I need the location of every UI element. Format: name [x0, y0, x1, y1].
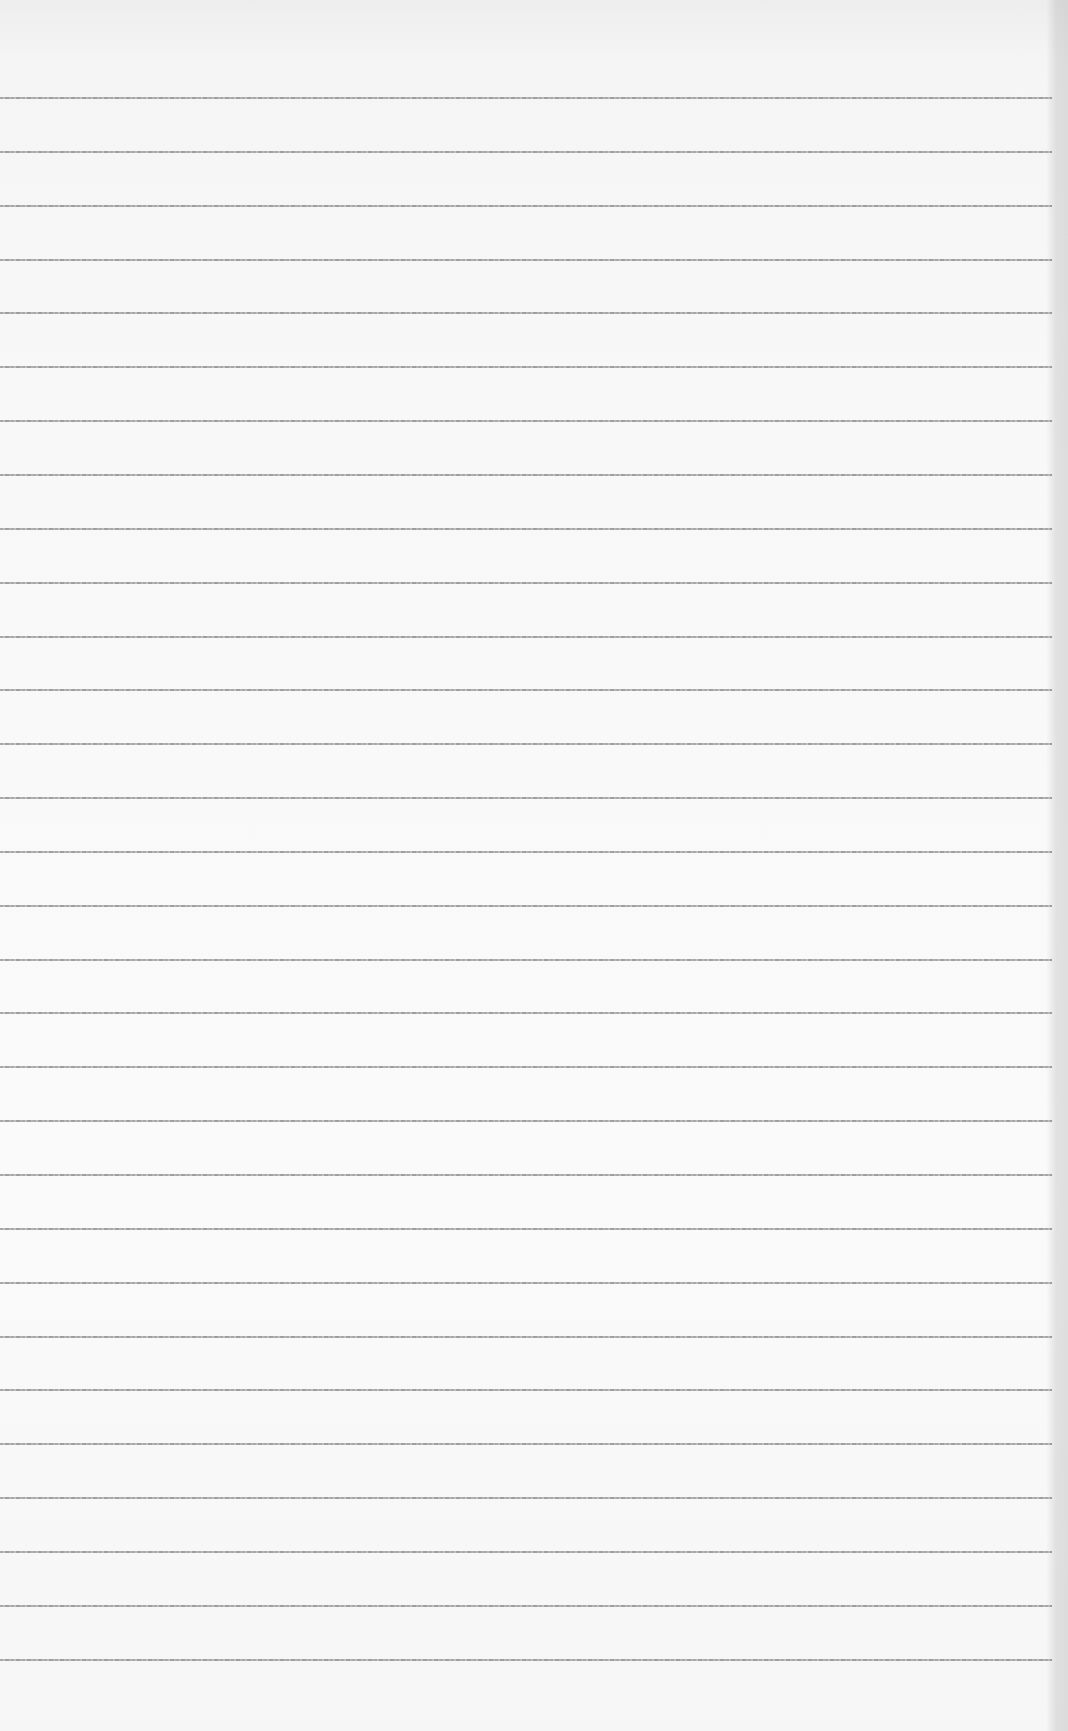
- ruled-line: [0, 1012, 1052, 1014]
- ruled-line: [0, 1443, 1052, 1445]
- ruled-line: [0, 743, 1052, 745]
- ruled-line: [0, 797, 1052, 799]
- right-edge-shadow: [1046, 0, 1068, 1731]
- ruled-line: [0, 1336, 1052, 1338]
- lined-paper-sheet: [0, 0, 1068, 1731]
- ruled-line: [0, 1605, 1052, 1607]
- ruled-line: [0, 1551, 1052, 1553]
- ruled-line: [0, 905, 1052, 907]
- ruled-line: [0, 582, 1052, 584]
- ruled-line: [0, 205, 1052, 207]
- ruled-line: [0, 1066, 1052, 1068]
- ruled-line: [0, 1228, 1052, 1230]
- ruled-line: [0, 366, 1052, 368]
- ruled-line: [0, 528, 1052, 530]
- ruled-line: [0, 97, 1052, 99]
- ruled-line: [0, 312, 1052, 314]
- ruled-line: [0, 636, 1052, 638]
- ruled-line: [0, 1120, 1052, 1122]
- ruled-line: [0, 851, 1052, 853]
- ruled-line: [0, 1497, 1052, 1499]
- ruled-line: [0, 259, 1052, 261]
- ruled-line: [0, 420, 1052, 422]
- ruled-line: [0, 1174, 1052, 1176]
- ruled-line: [0, 1659, 1052, 1661]
- ruled-line: [0, 959, 1052, 961]
- ruled-line: [0, 1282, 1052, 1284]
- ruled-line: [0, 151, 1052, 153]
- ruled-line: [0, 689, 1052, 691]
- ruled-line: [0, 1389, 1052, 1391]
- ruled-line: [0, 474, 1052, 476]
